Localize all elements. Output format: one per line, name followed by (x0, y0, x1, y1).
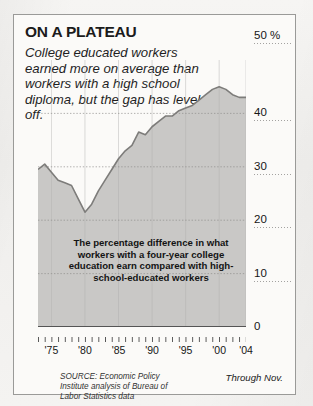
y-axis-tick-40: 40 (254, 106, 267, 118)
through-note: Through Nov. (226, 372, 283, 383)
source-note: SOURCE: Economic Policy Institute analys… (60, 372, 190, 401)
x-axis-tick-80: '80 (78, 344, 92, 356)
area-chart-svg (38, 60, 246, 327)
area-fill (38, 87, 246, 327)
y-axis-tick-0: 0 (254, 320, 260, 332)
chart-annotation: The percentage difference in what worker… (60, 237, 242, 283)
x-axis-tick-ruler (38, 337, 246, 342)
page-title: ON A PLATEAU (25, 23, 137, 41)
y-tick-dotted-stub (254, 227, 292, 228)
y-axis-tick-10: 10 (254, 267, 267, 279)
y-axis-tick-30: 30 (254, 160, 267, 172)
y-axis-tick-50: 50 % (254, 29, 280, 41)
x-axis-tick-95: '95 (179, 344, 193, 356)
x-axis-tick-00: '00 (212, 344, 226, 356)
x-axis-tick-75: '75 (45, 344, 59, 356)
x-axis-labels: '75'80'85'90'95'00'04 (38, 344, 258, 360)
x-axis-tick-04: '04 (239, 344, 253, 356)
y-tick-dotted-stub (254, 281, 292, 282)
y-tick-dotted-stub (254, 43, 292, 44)
chart-card: ON A PLATEAU College educated workers ea… (13, 14, 296, 395)
y-tick-dotted-stub (254, 120, 292, 121)
x-axis-tick-85: '85 (112, 344, 126, 356)
y-axis-labels: 01020304050 % (254, 60, 298, 350)
y-tick-dotted-stub (254, 174, 292, 175)
x-axis-tick-90: '90 (145, 344, 159, 356)
chart-plot-area (38, 60, 246, 327)
y-axis-tick-20: 20 (254, 213, 267, 225)
